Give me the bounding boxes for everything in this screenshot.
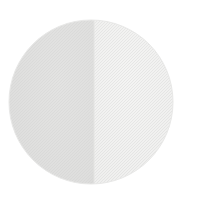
vertical-split-line xyxy=(94,0,95,198)
split-circle-graphic xyxy=(0,0,201,198)
swatch-canvas xyxy=(0,0,201,198)
